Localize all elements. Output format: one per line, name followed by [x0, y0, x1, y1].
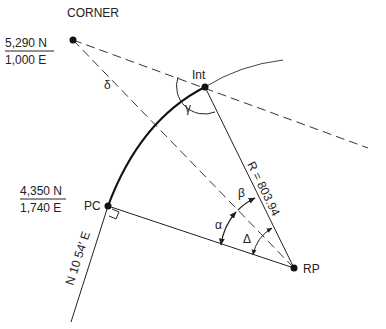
alpha-label: α	[215, 218, 222, 232]
delta-cap-label: Δ	[243, 232, 251, 246]
radius-pc-rp	[108, 206, 294, 268]
curve-arc-extension	[205, 60, 283, 87]
right-angle-mark	[109, 209, 119, 219]
rp-label: RP	[303, 262, 320, 276]
int-point	[202, 84, 209, 91]
corner-east-coord: 1,000 E	[5, 53, 46, 67]
corner-to-int-dashed-line	[73, 40, 368, 148]
pc-east-coord: 1,740 E	[20, 201, 61, 215]
radius-label: R = 803.94	[244, 159, 283, 218]
corner-to-rp-dashed-line	[73, 40, 294, 268]
int-label: Int	[192, 68, 206, 82]
beta-label: β	[238, 186, 245, 200]
rp-point	[291, 265, 298, 272]
corner-north-coord: 5,290 N	[5, 36, 47, 50]
delta-angle-arc	[253, 228, 272, 255]
gamma-label: γ	[185, 101, 191, 115]
bearing-label: N 10 54′ E	[63, 230, 94, 287]
delta-small-label: δ	[104, 78, 111, 92]
curve-geometry-diagram: CORNER 5,290 N 1,000 E 4,350 N 1,740 E I…	[0, 0, 386, 329]
pc-label: PC	[84, 199, 101, 213]
alpha-angle-arc	[221, 212, 236, 245]
pc-north-coord: 4,350 N	[20, 184, 62, 198]
corner-point	[70, 37, 77, 44]
corner-title: CORNER	[67, 6, 119, 20]
pc-point	[105, 203, 112, 210]
